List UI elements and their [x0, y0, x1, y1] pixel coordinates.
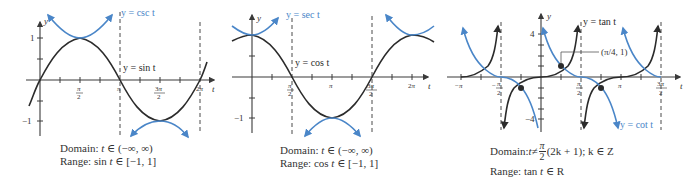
svg-text:−: − — [492, 82, 496, 90]
point-label: (π/4, 1) — [601, 47, 628, 57]
tan-curve-branch-1 — [461, 26, 498, 77]
caption-domain: Domain: t ∈ (−∞, ∞) — [60, 142, 156, 155]
panel-tan-cot: y t 4 −4 −π −π2 π2 π 3π2 y = tan t y = c… — [447, 11, 683, 132]
caption-range: Range: tan t ∈ R — [490, 165, 614, 178]
point-3pi-over-4 — [598, 85, 604, 91]
cot-label: y = cot t — [620, 119, 653, 130]
sec-curve-lower — [305, 118, 360, 136]
tan-label: y = tan t — [583, 16, 616, 27]
cos-label: y = cos t — [295, 57, 329, 68]
sec-curve-right — [386, 15, 434, 35]
caption-domain: Domain: t ≠ π2 (2k + 1); k ∈ Z — [490, 140, 614, 162]
svg-text:π: π — [329, 82, 333, 90]
svg-text:−π: −π — [455, 82, 463, 90]
csc-label: y = csc t — [121, 7, 155, 18]
svg-text:2: 2 — [497, 89, 501, 97]
svg-text:2: 2 — [77, 93, 81, 101]
t-axis-label: t — [428, 81, 431, 91]
svg-text:2: 2 — [157, 93, 161, 101]
caption-domain: Domain: t ∈ (−∞, ∞) — [280, 144, 378, 157]
panel-sin-csc: y t 1 −1 π2 π 3π2 2π y = csc t y = sin t — [22, 7, 215, 137]
t-axis-label: t — [212, 84, 215, 94]
caption-sin: Domain: t ∈ (−∞, ∞) Range: sin t ∈ [−1, … — [60, 142, 156, 168]
caption-cos: Domain: t ∈ (−∞, ∞) Range: cos t ∈ [−1, … — [280, 144, 378, 170]
y-axis-label: y — [256, 13, 261, 23]
y-axis-label: y — [43, 16, 48, 26]
svg-text:2π: 2π — [408, 82, 416, 90]
y-tick-4: 4 — [530, 29, 535, 39]
axes — [447, 14, 680, 132]
caption-range: Range: cos t ∈ [−1, 1] — [280, 157, 378, 170]
sin-label: y = sin t — [123, 62, 156, 73]
sec-label: y = sec t — [286, 9, 320, 20]
csc-curve-upper — [48, 15, 112, 38]
svg-text:π: π — [77, 85, 81, 93]
y-tick-1: 1 — [30, 33, 35, 43]
t-axis-label: t — [680, 81, 683, 91]
svg-text:2π: 2π — [196, 85, 204, 93]
svg-text:3π: 3π — [155, 85, 163, 93]
y-tick-neg1: −1 — [22, 116, 32, 126]
point-leader-line — [561, 52, 599, 63]
y-tick-neg1: −1 — [234, 113, 244, 123]
x-tick-labels: −π −π2 π2 π 3π2 — [455, 80, 667, 97]
panel-cos-sec: y t −1 π2 π 3π2 2π y = sec t y = cos t — [232, 9, 434, 136]
svg-text:π: π — [618, 82, 622, 90]
y-tick-neg4: −4 — [525, 114, 535, 124]
sec-curve-left — [232, 18, 278, 35]
svg-text:π: π — [577, 80, 581, 88]
point-pi-over-4 — [558, 63, 564, 69]
svg-text:2: 2 — [577, 89, 581, 97]
cot-curve-branch-3 — [623, 28, 661, 77]
y-axis-label: y — [546, 11, 551, 21]
caption-range: Range: sin t ∈ [−1, 1] — [60, 155, 156, 168]
fraction-pi-over-2: π2 — [539, 141, 546, 162]
svg-text:2: 2 — [659, 89, 663, 97]
x-tick-labels: π2 π 3π2 2π — [76, 85, 204, 101]
svg-text:2: 2 — [369, 90, 373, 98]
csc-curve-lower — [131, 121, 188, 137]
svg-text:2: 2 — [288, 90, 292, 98]
caption-tan: Domain: t ≠ π2 (2k + 1); k ∈ Z Range: ta… — [490, 140, 614, 178]
svg-text:3π: 3π — [367, 82, 375, 90]
svg-text:π: π — [497, 80, 501, 88]
svg-text:3π: 3π — [657, 80, 665, 88]
x-tick-labels: π2 π 3π2 2π — [287, 82, 416, 98]
svg-text:π: π — [288, 82, 292, 90]
svg-text:π: π — [117, 85, 121, 93]
point-neg-pi-over-4 — [518, 85, 524, 91]
